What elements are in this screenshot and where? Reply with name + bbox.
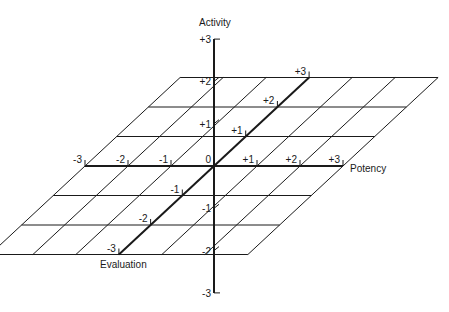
potency-tick-label: +2 <box>286 154 298 165</box>
potency-tick-label: +3 <box>329 154 341 165</box>
activity-axis-title: Activity <box>199 17 231 28</box>
activity-tick-label: -2 <box>202 246 211 257</box>
potency-tick-label: -1 <box>159 154 168 165</box>
activity-tick-label: +1 <box>200 119 212 130</box>
axis-labels: Activity Potency Evaluation -3-2-10+1+2+… <box>73 17 386 299</box>
potency-tick-label: 0 <box>205 154 211 165</box>
potency-axis-title: Potency <box>350 163 386 174</box>
evaluation-tick-label: -3 <box>107 243 116 254</box>
semantic-space-diagram: Activity Potency Evaluation -3-2-10+1+2+… <box>0 0 449 312</box>
evaluation-tick-label: -2 <box>139 213 148 224</box>
potency-tick-label: +1 <box>243 154 255 165</box>
activity-tick-label: -1 <box>202 203 211 214</box>
evaluation-axis-title: Evaluation <box>100 259 147 270</box>
evaluation-tick-label: +1 <box>231 125 243 136</box>
activity-tick-label: -3 <box>202 288 211 299</box>
evaluation-tick-label: +3 <box>295 66 307 77</box>
activity-tick-label: +2 <box>200 76 212 87</box>
potency-tick-label: -3 <box>73 154 82 165</box>
evaluation-tick-label: +2 <box>263 95 275 106</box>
potency-tick-label: -2 <box>116 154 125 165</box>
evaluation-tick-label: -1 <box>170 184 179 195</box>
activity-tick-label: +3 <box>200 34 212 45</box>
